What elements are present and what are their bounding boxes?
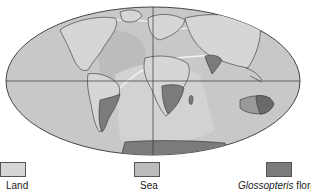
legend-swatch-land [0,162,26,177]
legend-label-glossopteris: Glossopteris flora [238,180,311,191]
legend-label-rest: flora [294,180,311,191]
legend-swatch-sea [134,162,160,177]
world-map [0,0,311,160]
madagascar [189,95,193,104]
legend-swatch-glossopteris [266,162,292,177]
antarctica-glossopteris [120,141,230,160]
legend-label-sea: Sea [140,180,158,191]
legend-label-land: Land [6,180,28,191]
legend-label-italic: Glossopteris [238,180,294,191]
